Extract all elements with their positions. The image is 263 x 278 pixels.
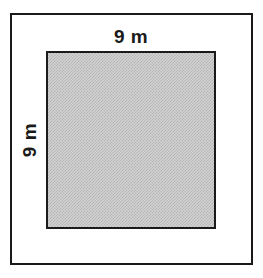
top-dimension-label: 9 m — [46, 26, 216, 48]
geometry-figure: 9 m 9 m — [0, 0, 263, 278]
shaded-square — [46, 51, 216, 229]
left-dimension-label: 9 m — [19, 123, 41, 157]
left-dimension-label-wrapper: 9 m — [17, 51, 43, 229]
